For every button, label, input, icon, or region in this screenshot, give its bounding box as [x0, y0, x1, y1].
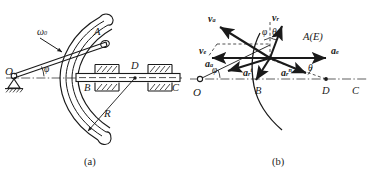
horizontal-bar-BC — [76, 74, 180, 82]
label-point-ae: A(E) — [303, 32, 323, 43]
label-slider-b-a: B — [84, 83, 90, 94]
label-origin-b: O — [193, 87, 201, 98]
omega-subscript: 0 — [44, 29, 47, 36]
label-phi-a: φ — [44, 65, 49, 75]
point-marker-d-b — [324, 77, 328, 81]
panel-b-drawing — [186, 0, 371, 160]
slider-guide-upper-right — [148, 65, 172, 74]
v-abs-subscript: a — [212, 16, 215, 23]
label-point-d-b: D — [322, 86, 330, 97]
label-v-abs: va — [208, 14, 216, 24]
panel-a-drawing — [0, 0, 186, 160]
a-rel-t-superscript: t — [250, 66, 252, 73]
point-marker-o-b — [197, 76, 202, 81]
trajectory-curve-b — [252, 33, 282, 130]
v-rel-subscript: r — [276, 15, 278, 22]
phi-angle-arc-b — [218, 70, 220, 78]
theta-angle-arc-top — [270, 38, 277, 41]
label-pin-a: A — [94, 27, 100, 38]
caption-panel-b: (b) — [272, 157, 284, 168]
label-point-b-b: B — [255, 86, 261, 97]
label-point-d-a: D — [131, 61, 139, 72]
a-rel-n-superscript: n — [288, 66, 291, 73]
figure-container: O A ω0 φ B D C R (a) — [0, 0, 371, 182]
caption-panel-a: (a) — [84, 157, 96, 168]
label-omega-zero: ω0 — [37, 27, 47, 37]
label-point-c-a: C — [172, 83, 179, 94]
label-v-ent: ve — [199, 46, 206, 56]
slider-guide-lower-left — [95, 82, 119, 91]
label-phi-b: φ — [212, 66, 217, 76]
v-ent-subscript: e — [203, 48, 206, 55]
label-origin-a: O — [5, 66, 13, 77]
omega-arrow — [40, 38, 62, 52]
label-a-rel-normal: arn — [281, 67, 292, 78]
label-phi-top: φ — [262, 28, 267, 38]
omega-symbol: ω — [37, 26, 44, 37]
label-a-ent: ae — [331, 46, 339, 56]
label-radius-r: R — [104, 108, 111, 119]
label-point-c-b: C — [352, 86, 359, 97]
label-theta-top: θ — [272, 28, 277, 38]
slider-guide-upper-left — [95, 65, 119, 74]
a-ent-subscript: e — [336, 48, 339, 55]
label-v-rel: vr — [272, 13, 279, 23]
label-a-rel-tangential: art — [243, 67, 252, 78]
slider-guide-lower-right — [148, 82, 172, 91]
phi-angle-arc-top — [264, 38, 270, 41]
label-theta-right: θ — [308, 64, 313, 74]
